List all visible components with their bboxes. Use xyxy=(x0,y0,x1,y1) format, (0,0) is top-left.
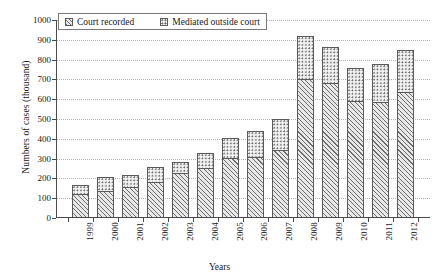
chart-legend: Court recorded Mediated outside court xyxy=(58,13,267,30)
bar-2001 xyxy=(122,175,139,218)
x-tick-label-2003: 2003 xyxy=(185,222,195,241)
x-axis-title: Years xyxy=(0,262,439,272)
x-tick-label-2007: 2007 xyxy=(284,222,294,241)
hatch-swatch-icon xyxy=(65,18,73,26)
bar-segment-court-recorded xyxy=(372,102,389,218)
bar-segment-mediated-outside-court xyxy=(147,167,164,183)
legend-label-court-recorded: Court recorded xyxy=(77,17,134,27)
bar-segment-mediated-outside-court xyxy=(347,68,364,102)
legend-label-mediated-outside-court: Mediated outside court xyxy=(172,17,260,27)
y-tick-label: 0 xyxy=(47,213,52,223)
bar-segment-court-recorded xyxy=(222,158,239,218)
bar-segment-mediated-outside-court xyxy=(122,175,139,187)
bar-segment-mediated-outside-court xyxy=(272,119,289,150)
bar-segment-court-recorded xyxy=(72,194,89,218)
y-tick-label: 300 xyxy=(38,154,52,164)
bar-segment-mediated-outside-court xyxy=(97,177,114,191)
y-tick-label: 1000 xyxy=(33,15,51,25)
bar-segment-mediated-outside-court xyxy=(72,185,89,195)
bar-segment-mediated-outside-court xyxy=(222,138,239,158)
legend-entry-court-recorded: Court recorded xyxy=(65,17,134,27)
bar-segment-court-recorded xyxy=(197,168,214,218)
bar-segment-court-recorded xyxy=(297,79,314,218)
bar-2010 xyxy=(347,68,364,218)
y-axis-title: Numbers of cases (thousand) xyxy=(21,22,31,212)
bar-2005 xyxy=(222,138,239,218)
bar-segment-court-recorded xyxy=(147,182,164,218)
bar-2009 xyxy=(322,47,339,218)
y-tick-label: 900 xyxy=(38,35,52,45)
dot-swatch-icon xyxy=(160,18,168,26)
x-tick-label-2004: 2004 xyxy=(210,222,220,241)
legend-entry-mediated-outside-court: Mediated outside court xyxy=(160,17,260,27)
y-tick-label: 500 xyxy=(38,114,52,124)
bar-segment-mediated-outside-court xyxy=(297,36,314,80)
bar-segment-court-recorded xyxy=(397,92,414,218)
bar-segment-court-recorded xyxy=(97,191,114,218)
x-tick-label-2005: 2005 xyxy=(235,222,245,241)
x-tick-label-2009: 2009 xyxy=(334,222,344,241)
stacked-bar-chart: Numbers of cases (thousand) 010020030040… xyxy=(0,0,439,278)
gridline xyxy=(56,60,430,61)
bar-segment-mediated-outside-court xyxy=(197,153,214,167)
bar-2012 xyxy=(397,50,414,218)
plot-area: 01002003004005006007008009001000 xyxy=(56,20,430,218)
bar-segment-court-recorded xyxy=(172,173,189,218)
x-tick-label-2010: 2010 xyxy=(359,222,369,241)
x-tick-label-2008: 2008 xyxy=(309,222,319,241)
bar-1999 xyxy=(72,185,89,218)
bar-segment-mediated-outside-court xyxy=(247,131,264,157)
x-tick-label-2000: 2000 xyxy=(110,222,120,241)
gridline xyxy=(56,40,430,41)
y-axis-line xyxy=(56,20,57,218)
bar-segment-mediated-outside-court xyxy=(322,47,339,84)
bar-segment-mediated-outside-court xyxy=(397,50,414,92)
bar-2004 xyxy=(197,153,214,218)
bar-2011 xyxy=(372,64,389,218)
x-tick-label-2011: 2011 xyxy=(384,222,394,240)
y-tick-label: 700 xyxy=(38,74,52,84)
x-tick-label-2002: 2002 xyxy=(160,222,170,241)
y-tick-label: 200 xyxy=(38,173,52,183)
bar-segment-mediated-outside-court xyxy=(172,162,189,173)
y-tick-label: 600 xyxy=(38,94,52,104)
bar-segment-mediated-outside-court xyxy=(372,64,389,102)
bar-2000 xyxy=(97,177,114,218)
y-tick-label: 400 xyxy=(38,134,52,144)
x-tick-label-2001: 2001 xyxy=(135,222,145,241)
x-tick-label-2006: 2006 xyxy=(259,222,269,241)
y-tick-mark xyxy=(52,218,56,219)
bar-segment-court-recorded xyxy=(122,187,139,218)
x-tick-label-2012: 2012 xyxy=(409,222,419,241)
bar-segment-court-recorded xyxy=(247,157,264,218)
bar-2008 xyxy=(297,36,314,218)
x-tick-label-1999: 1999 xyxy=(85,222,95,241)
y-tick-label: 100 xyxy=(38,193,52,203)
bar-2003 xyxy=(172,162,189,218)
plot-frame: 01002003004005006007008009001000 xyxy=(56,20,430,218)
bar-segment-court-recorded xyxy=(322,83,339,218)
bar-2002 xyxy=(147,167,164,218)
x-tick-mark xyxy=(68,218,69,222)
bar-2006 xyxy=(247,131,264,219)
bar-2007 xyxy=(272,119,289,218)
bar-segment-court-recorded xyxy=(272,150,289,218)
y-tick-label: 800 xyxy=(38,55,52,65)
bar-segment-court-recorded xyxy=(347,101,364,218)
